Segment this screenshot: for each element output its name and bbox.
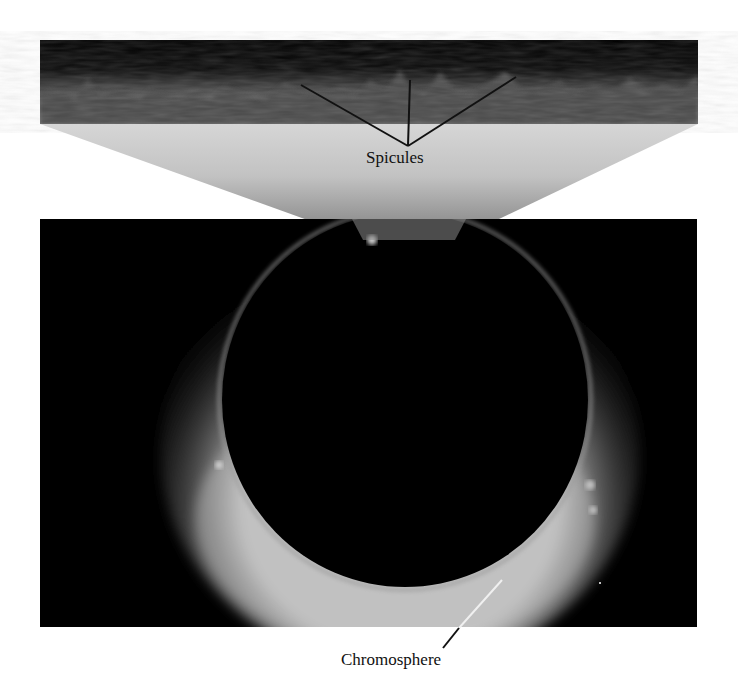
- chromosphere-label: Chromosphere: [341, 650, 441, 670]
- eclipse-panel: [40, 210, 697, 670]
- eclipse-figure: Spicules Chromosphere: [0, 0, 738, 700]
- moon-disk: [222, 213, 588, 587]
- figure-canvas: [0, 0, 738, 700]
- spicules-label: Spicules: [366, 148, 424, 168]
- spicules-inset: [40, 40, 698, 124]
